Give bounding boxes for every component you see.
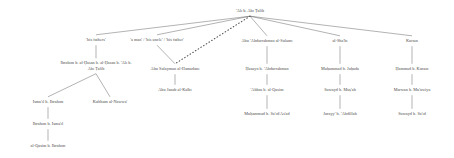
edge-ali-to-abu-abdurrahman xyxy=(250,16,267,36)
edge-layer xyxy=(0,0,454,158)
node-qasim-ibrahim: al-Qāsim b. Ibrāhīm xyxy=(31,143,66,149)
node-suwayd-musab: Suwayd b. Muṣ'ab xyxy=(324,87,356,93)
node-marwan: Marwān b. Mu'āwiya xyxy=(394,87,431,93)
edge-ali-to-abu-sulayman xyxy=(175,16,250,64)
node-ibrahim-hasan: Ibrāhīm b. al-Ḥasan b. al-Ḥasan b. 'Alī … xyxy=(60,60,132,71)
node-abu-sulayman: Abū Sulaymān al-Hamadānī xyxy=(151,66,200,72)
edge-ali-to-kurayb xyxy=(250,16,412,36)
node-ismail: Ismā'īl b. Ibrāhīm xyxy=(33,99,64,105)
edge-ali-to-al-shabi xyxy=(250,16,340,36)
node-jurayy: Jurayy' b. 'Abdillāh xyxy=(323,111,357,117)
node-husayn: Ḥusayn b. 'Abdurrahmān xyxy=(245,66,288,72)
node-abbas-qasim: 'Abbās b. al-Qāsim xyxy=(251,87,284,93)
edge-ali-to-a-man xyxy=(157,16,250,35)
node-muhammad-juhada: Muḥammad b. Juḥāda xyxy=(321,66,359,72)
node-abu-janab: Abū Janāb al-Kalbī xyxy=(158,87,191,93)
edge-ibrahim-hasan-to-ismail xyxy=(48,74,96,97)
isnad-diagram: 'Alī b. Abī Ṭālib'his fathers''a man' / … xyxy=(0,0,454,158)
node-hammad-kurayb: Ḥammād b. Kuraīn xyxy=(395,66,428,72)
node-his-fathers: 'his fathers' xyxy=(86,37,106,43)
edge-a-man-to-abu-sulayman xyxy=(157,45,175,64)
node-a-man: 'a man' / 'his uncle' / 'his father' xyxy=(130,37,184,43)
node-al-shabi: al-Sha'bī xyxy=(332,38,347,44)
edge-ibrahim-hasan-to-kulthum xyxy=(96,74,110,97)
node-kurayb: Kuraīn xyxy=(406,38,418,44)
node-suwayd-said: Suwayd b. Sa'īd xyxy=(398,111,426,117)
node-ali: 'Alī b. Abī Ṭālib xyxy=(236,8,264,14)
node-abu-abdurrahman: Abū 'Abdurrahmān al-Sulamī xyxy=(242,38,293,44)
node-muhammad-said: Muḥammad b. Sa'īd/As'ad xyxy=(244,111,289,117)
node-ibrahim-ismail: Ibrāhīm b. Ismā'īl xyxy=(33,121,64,127)
edge-ali-to-his-fathers xyxy=(96,16,250,35)
node-kulthum: Kulthūm al-Nawwā' xyxy=(93,99,128,105)
